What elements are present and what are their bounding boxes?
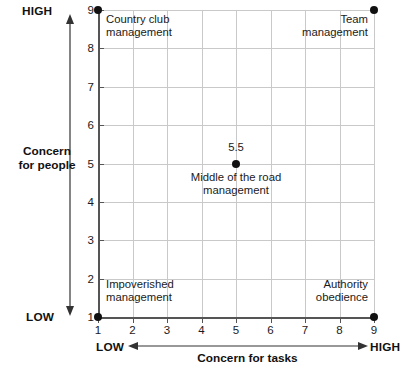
gridline-horizontal xyxy=(98,87,374,88)
annotation-line: Middle of the road xyxy=(176,171,296,184)
y-axis-title: Concern for people xyxy=(16,145,78,172)
gridline-horizontal xyxy=(98,10,374,11)
gridline-horizontal xyxy=(98,125,374,126)
gridline-horizontal xyxy=(98,240,374,241)
y-tick-mark xyxy=(99,202,104,203)
data-point-team[interactable] xyxy=(370,6,378,14)
annotation-line: Country club xyxy=(106,13,172,26)
x-tick-label: 6 xyxy=(261,324,281,336)
y-axis-title-line: for people xyxy=(16,159,78,173)
y-tick-mark xyxy=(99,48,104,49)
annotation-middle-of-road: Middle of the road management xyxy=(176,171,296,197)
y-tick-mark xyxy=(99,125,104,126)
x-axis-low-label: LOW xyxy=(96,340,124,354)
annotation-country-club: Country club management xyxy=(106,13,172,39)
annotation-line: management xyxy=(106,291,174,304)
x-tick-mark xyxy=(202,318,203,323)
gridline-horizontal xyxy=(98,202,374,203)
y-axis-title-line: Concern xyxy=(16,145,78,159)
annotation-authority-obedience: Authority obedience xyxy=(258,278,368,304)
gridline-horizontal xyxy=(98,48,374,49)
gridline-vertical xyxy=(374,10,375,317)
annotation-line: management xyxy=(106,26,172,39)
x-tick-mark xyxy=(271,318,272,323)
x-tick-mark xyxy=(167,318,168,323)
annotation-line: Team xyxy=(248,13,368,26)
data-point-middle-of-road[interactable] xyxy=(232,160,240,168)
y-tick-mark xyxy=(99,164,104,165)
managerial-grid-chart: 9 8 7 6 5 4 3 2 1 1 2 3 4 5 6 7 8 9 Coun… xyxy=(0,0,405,368)
x-tick-mark xyxy=(340,318,341,323)
x-tick-label: 8 xyxy=(330,324,350,336)
y-axis-high-label: HIGH xyxy=(22,4,52,18)
y-tick-mark xyxy=(99,240,104,241)
data-point-authority-obedience[interactable] xyxy=(370,313,378,321)
x-tick-label: 1 xyxy=(88,324,108,336)
data-point-country-club[interactable] xyxy=(94,6,102,14)
x-tick-label: 2 xyxy=(123,324,143,336)
annotation-middle-value: 5.5 xyxy=(206,141,266,154)
y-tick-mark xyxy=(99,87,104,88)
x-tick-mark xyxy=(305,318,306,323)
data-point-impoverished[interactable] xyxy=(94,313,102,321)
annotation-line: management xyxy=(248,26,368,39)
annotation-team: Team management xyxy=(248,13,368,39)
x-axis-high-label: HIGH xyxy=(370,340,400,354)
x-tick-mark xyxy=(236,318,237,323)
annotation-line: Authority xyxy=(258,278,368,291)
annotation-line: obedience xyxy=(258,291,368,304)
x-tick-label: 4 xyxy=(192,324,212,336)
x-axis-title: Concern for tasks xyxy=(140,352,355,366)
x-tick-label: 3 xyxy=(157,324,177,336)
y-axis-low-label: LOW xyxy=(26,310,54,324)
x-tick-mark xyxy=(133,318,134,323)
x-tick-label: 7 xyxy=(295,324,315,336)
y-tick-mark xyxy=(99,279,104,280)
x-tick-label: 9 xyxy=(364,324,384,336)
annotation-line: Impoverished xyxy=(106,278,174,291)
annotation-line: management xyxy=(176,184,296,197)
annotation-impoverished: Impoverished management xyxy=(106,278,174,304)
x-tick-label: 5 xyxy=(226,324,246,336)
